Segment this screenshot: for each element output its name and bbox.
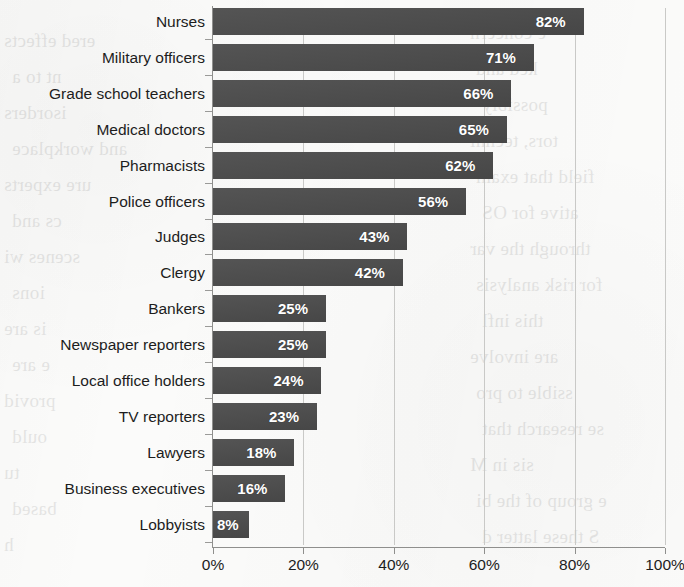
bar-value-label: 24%: [273, 367, 303, 394]
x-axis-tick-label: 20%: [288, 556, 319, 574]
x-axis-tick-label: 60%: [469, 556, 500, 574]
category-label: Lawyers: [147, 439, 205, 466]
chart-row: TV reporters23%: [0, 403, 684, 430]
category-label: Pharmacists: [120, 152, 205, 179]
x-axis-tick: [213, 548, 214, 554]
chart-row: Nurses82%: [0, 8, 684, 35]
bar-value-label: 42%: [355, 259, 385, 286]
x-axis-tick-label: 80%: [559, 556, 590, 574]
chart-row: Business executives16%: [0, 475, 684, 502]
category-label: TV reporters: [119, 403, 205, 430]
y-axis-tick: [205, 290, 212, 291]
bar: [213, 403, 317, 430]
x-axis-tick: [575, 548, 576, 554]
horizontal-bar-chart: Nurses82%Military officers71%Grade schoo…: [0, 0, 684, 587]
bar-value-label: 25%: [278, 331, 308, 358]
chart-page: e concernked andpossiblytors, technifiel…: [0, 0, 684, 587]
chart-row: Military officers71%: [0, 44, 684, 71]
bar-value-label: 65%: [459, 116, 489, 143]
category-label: Newspaper reporters: [60, 331, 205, 358]
category-label: Business executives: [65, 475, 205, 502]
y-axis-tick: [205, 434, 212, 435]
x-axis-line: [212, 547, 665, 548]
bar-value-label: 18%: [246, 439, 276, 466]
category-label: Nurses: [156, 8, 205, 35]
category-label: Local office holders: [72, 367, 205, 394]
bar-value-label: 16%: [237, 475, 267, 502]
bar: [213, 8, 584, 35]
x-axis-tick: [665, 548, 666, 554]
bar-value-label: 71%: [486, 44, 516, 71]
chart-row: Lawyers18%: [0, 439, 684, 466]
chart-row: Pharmacists62%: [0, 152, 684, 179]
bar-value-label: 56%: [418, 188, 448, 215]
y-axis-tick: [205, 398, 212, 399]
y-axis-tick: [205, 147, 212, 148]
bar-value-label: 43%: [359, 223, 389, 250]
chart-row: Clergy42%: [0, 259, 684, 286]
x-axis-tick: [303, 548, 304, 554]
chart-row: Local office holders24%: [0, 367, 684, 394]
chart-row: Medical doctors65%: [0, 116, 684, 143]
category-label: Lobbyists: [140, 511, 205, 538]
chart-row: Judges43%: [0, 223, 684, 250]
category-label: Clergy: [160, 259, 205, 286]
x-axis-tick-label: 40%: [378, 556, 409, 574]
bar-value-label: 23%: [269, 403, 299, 430]
bar-value-label: 8%: [217, 511, 239, 538]
chart-row: Grade school teachers66%: [0, 80, 684, 107]
bar: [213, 367, 321, 394]
bar: [213, 331, 326, 358]
category-label: Bankers: [148, 295, 205, 322]
bar-value-label: 25%: [278, 295, 308, 322]
x-axis-tick: [394, 548, 395, 554]
category-label: Grade school teachers: [49, 80, 205, 107]
y-axis-tick: [205, 75, 212, 76]
y-axis-tick: [205, 326, 212, 327]
bar: [213, 295, 326, 322]
bar-value-label: 82%: [536, 8, 566, 35]
y-axis-tick: [205, 254, 212, 255]
chart-row: Bankers25%: [0, 295, 684, 322]
chart-row: Lobbyists8%: [0, 511, 684, 538]
bar-value-label: 66%: [463, 80, 493, 107]
category-label: Military officers: [102, 44, 205, 71]
bar-value-label: 62%: [445, 152, 475, 179]
y-axis-tick: [205, 39, 212, 40]
x-axis-tick: [484, 548, 485, 554]
x-axis-tick-label: 0%: [202, 556, 224, 574]
y-axis-tick: [205, 542, 212, 543]
y-axis-tick: [205, 219, 212, 220]
y-axis-tick: [205, 111, 212, 112]
x-axis-tick-label: 100%: [645, 556, 684, 574]
y-axis-tick: [205, 470, 212, 471]
category-label: Police officers: [109, 188, 205, 215]
category-label: Medical doctors: [96, 116, 205, 143]
category-label: Judges: [155, 223, 205, 250]
y-axis-tick: [205, 362, 212, 363]
chart-row: Newspaper reporters25%: [0, 331, 684, 358]
y-axis-tick: [205, 183, 212, 184]
y-axis-tick: [205, 506, 212, 507]
chart-row: Police officers56%: [0, 188, 684, 215]
